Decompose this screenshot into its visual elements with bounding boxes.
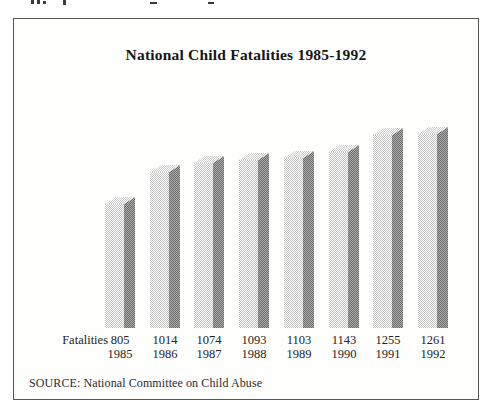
ink-remnant xyxy=(37,0,40,4)
ink-remnant xyxy=(208,2,214,4)
bar-year-label: 1988 xyxy=(232,347,276,362)
bar-side-face xyxy=(213,156,224,328)
bar-year-label: 1989 xyxy=(277,347,321,362)
bar-value-label: 1074 xyxy=(187,333,231,348)
bar-value-label: 1014 xyxy=(143,333,187,348)
bar-side-face xyxy=(258,153,269,328)
bar-year-label: 1986 xyxy=(143,347,187,362)
bar-value-label: 1093 xyxy=(232,333,276,348)
bar-front-face xyxy=(239,160,258,328)
ink-remnant xyxy=(63,0,66,5)
bar-1992 xyxy=(418,127,448,328)
ink-remnant xyxy=(150,2,157,4)
bar-1986 xyxy=(150,165,180,328)
ink-remnant xyxy=(31,0,34,4)
bar-1988 xyxy=(239,153,269,328)
bar-front-face xyxy=(105,204,124,328)
bar-1985 xyxy=(105,197,135,328)
bar-side-face xyxy=(392,128,403,328)
bar-1991 xyxy=(373,128,403,328)
scanned-page: National Child Fatalities 1985-1992 8051… xyxy=(0,0,489,412)
bar-front-face xyxy=(194,163,213,328)
bar-front-face xyxy=(373,135,392,328)
bar-year-label: 1991 xyxy=(366,347,410,362)
bar-side-face xyxy=(303,151,314,328)
source-note: SOURCE: National Committee on Child Abus… xyxy=(29,376,262,391)
bar-year-label: 1990 xyxy=(322,347,366,362)
bar-value-label: 1255 xyxy=(366,333,410,348)
bar-front-face xyxy=(150,172,169,328)
bar-1987 xyxy=(194,156,224,328)
bar-value-label: 1143 xyxy=(322,333,366,348)
bar-front-face xyxy=(418,134,437,328)
bar-1990 xyxy=(329,145,359,328)
fatalities-row-label: Fatalities xyxy=(20,333,108,348)
bar-front-face xyxy=(329,152,348,328)
bar-side-face xyxy=(169,165,180,328)
bar-value-label: 1103 xyxy=(277,333,321,348)
ink-remnant xyxy=(43,1,46,4)
bar-value-label: 1261 xyxy=(411,333,455,348)
bar-side-face xyxy=(437,127,448,328)
bar-year-label: 1985 xyxy=(98,347,142,362)
bar-side-face xyxy=(124,197,135,328)
chart-frame: National Child Fatalities 1985-1992 8051… xyxy=(13,18,479,400)
bar-year-label: 1992 xyxy=(411,347,455,362)
bar-year-label: 1987 xyxy=(187,347,231,362)
bar-front-face xyxy=(284,158,303,328)
bar-1989 xyxy=(284,151,314,328)
bar-side-face xyxy=(348,145,359,328)
